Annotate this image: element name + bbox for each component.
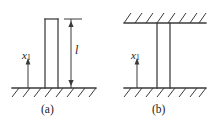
figure-drawing (0, 0, 215, 125)
panel-a-dimension-arrow-top (68, 21, 73, 27)
panel-a-caption: (a) (41, 104, 54, 116)
panel-b-column (157, 23, 170, 88)
panel-a-ground-hatching (12, 88, 96, 97)
panel-a-dimension-arrow-bottom (68, 80, 73, 86)
panel-a-dimension-line (64, 19, 82, 88)
panel-b-caption: (b) (152, 104, 165, 116)
panel-a-length-label: l (75, 44, 78, 56)
panel-b-ceiling-hatching (124, 13, 206, 23)
figure-container: x1 l (a) x1 (b) (0, 0, 215, 125)
panel-a-x-axis-label: x1 (22, 50, 31, 62)
panel-b-x-axis-label: x1 (131, 50, 140, 62)
panel-b-ground-hatching (124, 88, 206, 97)
panel-a-column (45, 19, 58, 88)
